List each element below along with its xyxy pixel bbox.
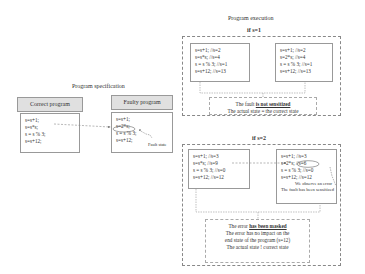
- execution-title: Program execution: [228, 15, 274, 21]
- code-line: s=s+12; //s=12: [281, 174, 332, 181]
- code-line: s=s*s; //s=4: [195, 54, 245, 61]
- note-emphasis: is not sensitized: [256, 101, 291, 107]
- case2-note: The error has been masked The error has …: [205, 219, 310, 263]
- code-line: s=2*s; //s=6: [281, 160, 332, 167]
- note-text: The actual state ! correct state: [206, 244, 309, 251]
- code-line: s = s % 3; //s=1: [280, 61, 328, 68]
- code-line: s=s+12; //s=13: [280, 68, 328, 75]
- case2-faulty-code: s=s+1; //s=3 s=2*s; //s=6 s = s % 3; //s…: [276, 149, 337, 204]
- case1-correct-code: s=s+1; //s=2 s=s*s; //s=4 s = s % 3; //s…: [190, 43, 250, 82]
- code-line: s=s*s;: [25, 124, 75, 131]
- note-text: The fault: [236, 101, 256, 107]
- case1-faulty-code: s=s+1; //s=2 s=2*s; //s=4 s = s % 3; //s…: [275, 43, 333, 82]
- code-line: s=2*s; //s=4: [280, 54, 328, 61]
- case2-correct-code: s=s+1; //s=3 s=s*s; //s=9 s = s % 3; //s…: [188, 149, 250, 189]
- code-line: s = s % 3; //s=1: [195, 61, 245, 68]
- note-text: end state of the program (s=12): [206, 237, 309, 244]
- note-text: The error has no impact on the: [206, 230, 309, 237]
- case1-label: if s=1: [247, 27, 261, 33]
- correct-program-code: s=s+1; s=s*s; s = s % 3; s=s+12;: [20, 113, 80, 153]
- faulty-program-header: Faulty program: [111, 95, 173, 110]
- code-line: s=s+1; //s=3: [193, 153, 245, 160]
- fault-state-label: Fault state: [148, 142, 167, 147]
- observe-text: The fault has been sensitized: [281, 187, 332, 193]
- case1-note: The fault is not sensitized The actual s…: [209, 97, 317, 115]
- code-line: s=s+12; //s=13: [195, 68, 245, 75]
- code-line: s=s+12;: [25, 138, 75, 145]
- code-line: s = s % 3;: [25, 131, 75, 138]
- code-line: s=s+12; //s=12: [193, 174, 245, 181]
- case2-label: if s=2: [252, 135, 266, 141]
- code-line: s = s % 3;: [116, 130, 168, 137]
- code-line: s=s+1; //s=2: [280, 47, 328, 54]
- code-line: s=s*s; //s=9: [193, 160, 245, 167]
- code-line: s=s+1; //s=3: [281, 153, 332, 160]
- note-emphasis: has been masked: [249, 223, 286, 229]
- code-line: s = s % 3; //s=0: [193, 167, 245, 174]
- code-line: s=s+1;: [25, 117, 75, 124]
- correct-program-header: Correct program: [17, 97, 83, 112]
- code-line: s=s+1;: [116, 116, 168, 123]
- note-text: The actual state = the correct state: [210, 108, 316, 115]
- code-line: s=s+1; //s=2: [195, 47, 245, 54]
- spec-title: Program specification: [72, 83, 125, 89]
- code-line: s=2*s;: [116, 123, 168, 130]
- code-line: s = s % 3; //s=0: [281, 167, 332, 174]
- note-text: The error: [228, 223, 249, 229]
